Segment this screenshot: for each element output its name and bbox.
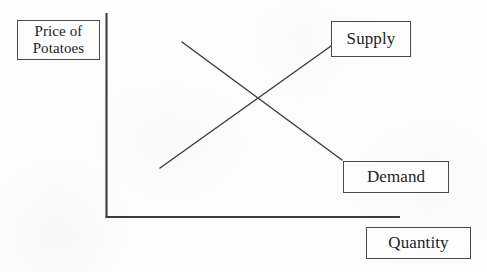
demand-label-box: Demand xyxy=(343,161,449,193)
demand-curve xyxy=(182,42,342,160)
supply-label-box: Supply xyxy=(331,21,411,57)
supply-demand-figure: Price of Potatoes Supply Demand Quantity xyxy=(0,0,487,272)
supply-curve xyxy=(160,46,331,168)
x-axis-label-box: Quantity xyxy=(366,227,471,259)
y-axis-label-box: Price of Potatoes xyxy=(17,20,100,60)
